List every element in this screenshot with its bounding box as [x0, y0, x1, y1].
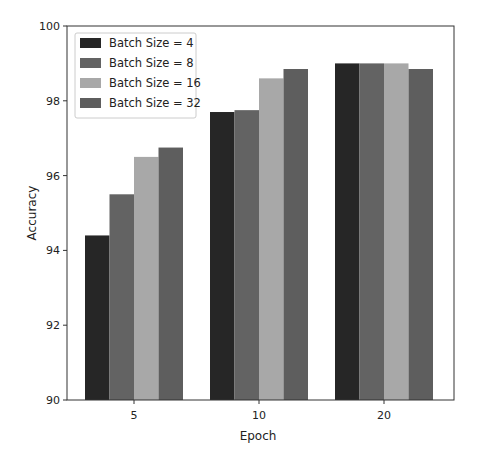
bar: [409, 69, 434, 400]
y-tick-label: 94: [46, 244, 60, 257]
x-axis-label: Epoch: [240, 429, 277, 443]
bar: [360, 63, 385, 400]
bar: [85, 235, 110, 400]
bar: [335, 63, 360, 400]
y-tick-label: 96: [46, 170, 60, 183]
legend-swatch: [80, 98, 101, 108]
bar: [259, 78, 284, 400]
x-tick-label: 5: [131, 409, 138, 422]
legend-label: Batch Size = 16: [109, 76, 201, 90]
bar-chart: 9092949698100 51020 Epoch Accuracy Batch…: [0, 0, 481, 470]
bar: [134, 157, 159, 400]
bar: [384, 63, 409, 400]
y-tick-label: 92: [46, 319, 60, 332]
bar: [235, 110, 260, 400]
bar: [284, 69, 309, 400]
y-tick-label: 100: [39, 20, 60, 33]
legend-swatch: [80, 58, 101, 68]
legend-label: Batch Size = 8: [109, 56, 194, 70]
x-tick-label: 20: [377, 409, 391, 422]
legend-label: Batch Size = 4: [109, 36, 194, 50]
legend-swatch: [80, 78, 101, 88]
legend-swatch: [80, 38, 101, 48]
x-tick-label: 10: [252, 409, 266, 422]
y-axis-ticks: 9092949698100: [39, 20, 67, 407]
bar: [159, 148, 184, 400]
bar: [110, 194, 135, 400]
legend-label: Batch Size = 32: [109, 96, 201, 110]
y-axis-label: Accuracy: [25, 186, 39, 241]
bar: [210, 112, 235, 400]
y-tick-label: 98: [46, 95, 60, 108]
y-tick-label: 90: [46, 394, 60, 407]
legend: Batch Size = 4Batch Size = 8Batch Size =…: [75, 33, 201, 118]
x-axis-ticks: 51020: [131, 400, 392, 422]
